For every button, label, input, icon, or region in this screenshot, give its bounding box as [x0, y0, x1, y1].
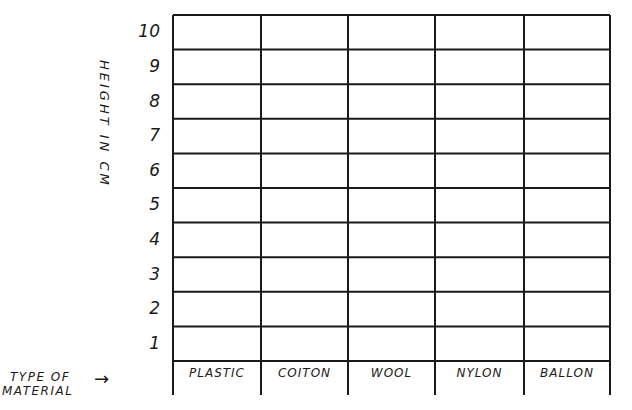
- x-category-label: BALLON: [524, 366, 610, 380]
- y-tick-label: 5: [130, 194, 160, 214]
- x-category-label: COITON: [261, 366, 348, 380]
- y-tick-label: 1: [130, 333, 160, 353]
- y-tick-label: 6: [130, 160, 160, 180]
- x-category-label: WOOL: [348, 366, 435, 380]
- x-axis-title-line1: TYPE OF: [2, 370, 73, 384]
- y-tick-label: 2: [130, 298, 160, 318]
- x-category-label: NYLON: [435, 366, 524, 380]
- y-tick-label: 3: [130, 264, 160, 284]
- x-axis-title: TYPE OF MATERIAL: [2, 370, 73, 398]
- y-tick-label: 9: [130, 56, 160, 76]
- x-category-label: PLASTIC: [173, 366, 261, 380]
- y-tick-label: 7: [130, 125, 160, 145]
- arrow-right-icon: →: [94, 368, 109, 389]
- y-tick-label: 8: [130, 91, 160, 111]
- x-axis-title-line2: MATERIAL: [2, 384, 73, 398]
- chart-grid: [0, 0, 632, 410]
- y-tick-label: 4: [130, 229, 160, 249]
- y-tick-label: 10: [130, 21, 160, 41]
- y-axis-label: HEIGHT IN CM: [97, 60, 112, 188]
